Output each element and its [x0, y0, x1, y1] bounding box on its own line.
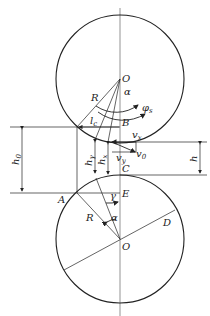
label-D: D — [162, 217, 171, 228]
label-h0: h0 — [10, 154, 23, 165]
label-O-top: O — [122, 73, 130, 84]
label-hx: hx — [96, 155, 109, 165]
label-alpha-top: α — [124, 86, 131, 97]
label-h: h — [188, 156, 199, 162]
label-O-bottom: O — [122, 241, 130, 252]
radial-hx — [108, 79, 120, 142]
roll-gap-diagram: O α φs R B lc vx v0 vy h0 hγ hx h C A E … — [0, 0, 210, 316]
label-B: B — [121, 117, 129, 128]
radial-gamma — [96, 178, 120, 239]
label-gamma: γ — [110, 190, 116, 201]
label-hgamma: hγ — [83, 155, 96, 166]
radius-R-top — [77, 79, 120, 127]
label-A: A — [57, 194, 65, 205]
label-R-top: R — [90, 92, 99, 103]
label-alpha-bottom: α — [111, 212, 118, 223]
diagram-svg: O α φs R B lc vx v0 vy h0 hγ hx h C A E … — [0, 0, 210, 316]
alpha-arc-top — [96, 105, 138, 112]
v0-vector — [112, 142, 135, 152]
label-E: E — [121, 188, 130, 199]
gamma-arc — [106, 202, 118, 203]
label-v0: v0 — [136, 148, 147, 161]
label-R-bottom: R — [85, 212, 94, 223]
label-vx: vx — [132, 129, 142, 142]
label-lc: lc — [90, 115, 97, 128]
label-C: C — [122, 163, 130, 174]
diameter-D — [64, 210, 175, 270]
radial-hgamma — [95, 79, 120, 140]
label-phi: φs — [142, 102, 153, 115]
